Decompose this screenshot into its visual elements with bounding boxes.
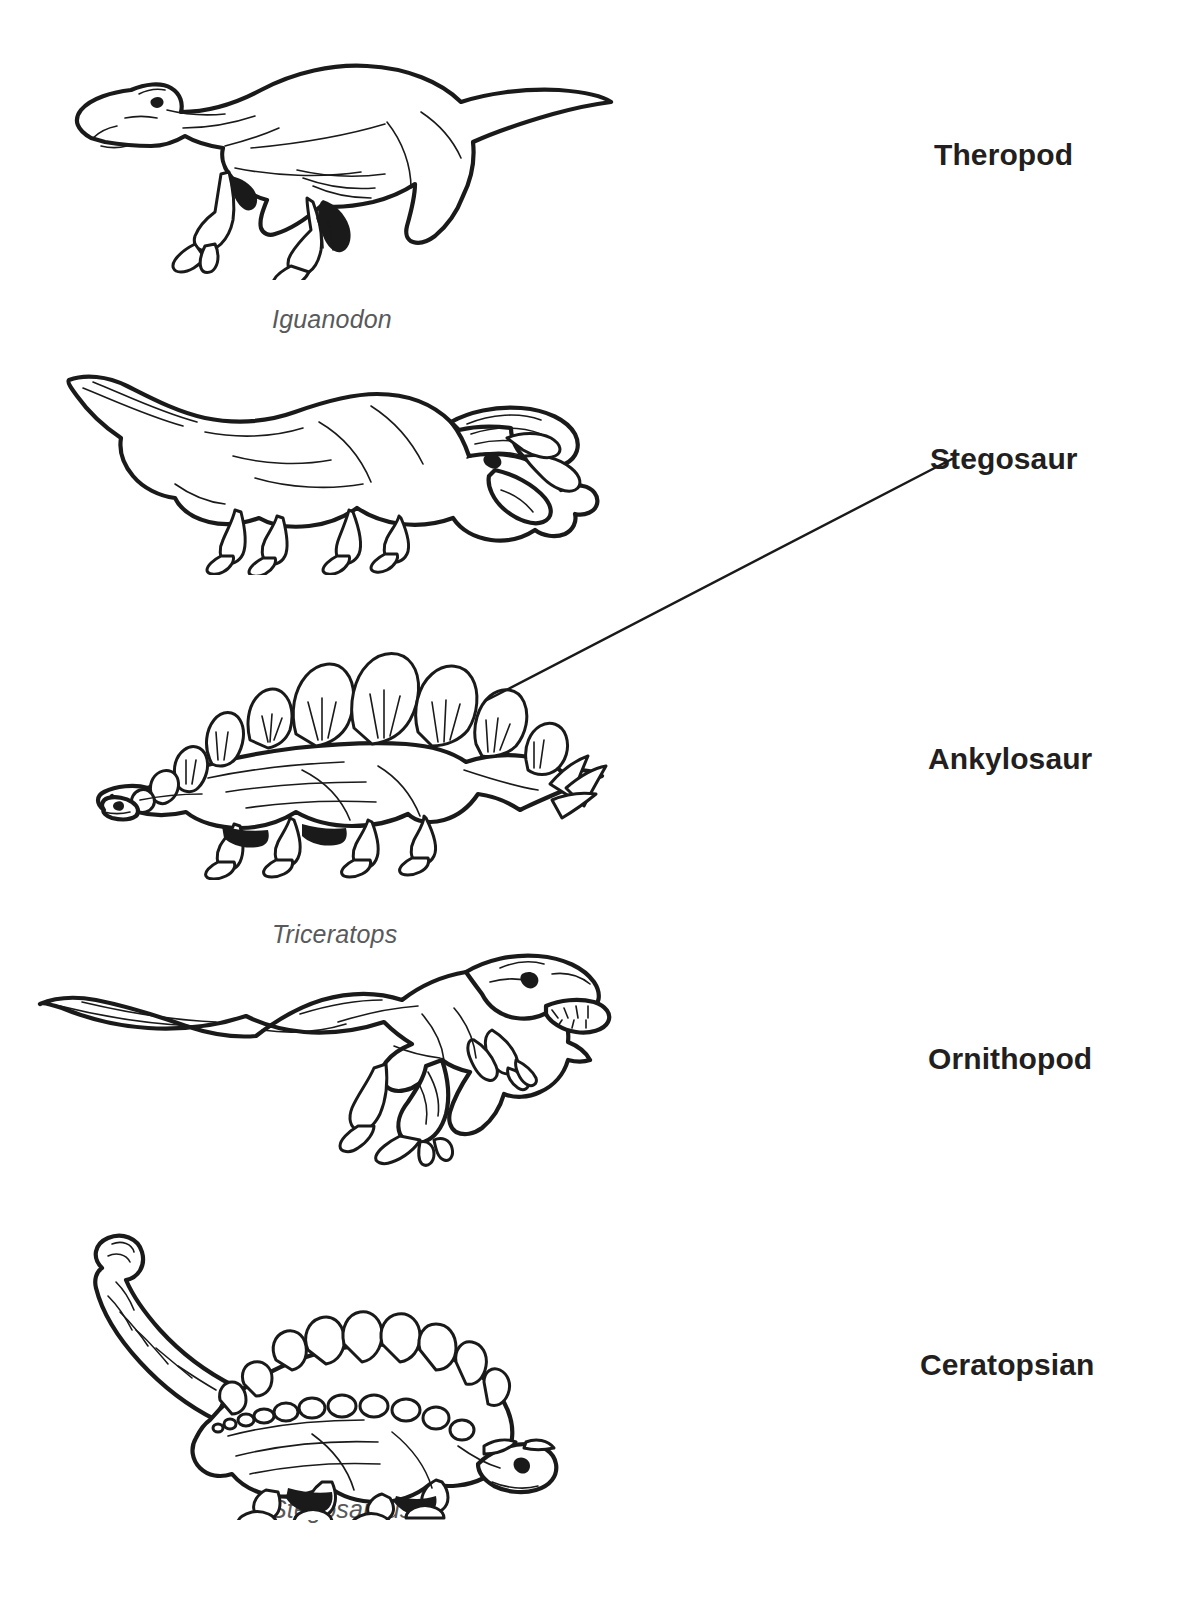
triceratops-line-drawing — [55, 360, 615, 575]
triceratops-illustration[interactable] — [55, 360, 615, 575]
group-label-theropod[interactable]: Theropod — [934, 138, 1073, 172]
specimen-caption-iguanodon: Iguanodon — [272, 305, 392, 334]
iguanodon-illustration[interactable] — [55, 50, 615, 280]
worksheet-page: Iguanodon — [0, 0, 1189, 1611]
specimen-row-triceratops: Triceratops — [0, 350, 640, 650]
specimen-row-tyrannosaurus-rex: Tyrannosaurus Rex — [0, 900, 640, 1220]
ankylosaurus-line-drawing — [60, 1220, 560, 1520]
group-label-ornithopod[interactable]: Ornithopod — [928, 1042, 1092, 1076]
specimen-row-iguanodon: Iguanodon — [0, 40, 640, 340]
tyrannosaurus-rex-line-drawing — [30, 910, 630, 1180]
specimen-row-stegosaurus: Stegosaurus — [0, 620, 640, 920]
group-label-ankylosaur[interactable]: Ankylosaur — [928, 742, 1092, 776]
iguanodon-line-drawing — [55, 50, 615, 280]
ankylosaurus-illustration[interactable] — [60, 1220, 560, 1520]
stegosaurus-illustration[interactable] — [90, 620, 610, 880]
group-label-stegosaur[interactable]: Stegosaur — [930, 442, 1078, 476]
group-label-ceratopsian[interactable]: Ceratopsian — [920, 1348, 1094, 1382]
specimen-row-ankylosaurus: Ankylosaurus — [0, 1210, 640, 1540]
stegosaurus-line-drawing — [90, 620, 610, 880]
tyrannosaurus-rex-illustration[interactable] — [30, 910, 630, 1180]
